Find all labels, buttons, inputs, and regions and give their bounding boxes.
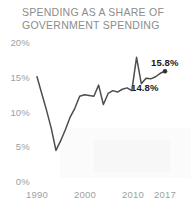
series-end-marker — [163, 69, 168, 74]
series-line — [37, 57, 165, 150]
chart-card: SPENDING AS A SHARE OF GOVERNMENT SPENDI… — [0, 0, 191, 206]
line-plot — [0, 0, 191, 206]
